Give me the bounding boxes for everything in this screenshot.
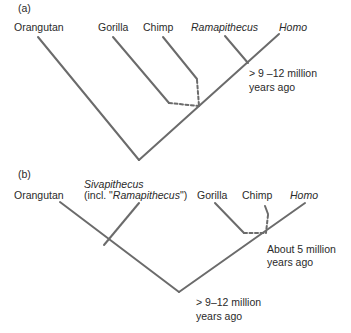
- branch-chimp-a: [163, 37, 197, 79]
- branch-orangutan-a: [38, 37, 139, 160]
- dotted-link-a: [169, 103, 199, 106]
- branch-gorilla-b: [215, 203, 244, 233]
- branch-ramapithecus-a: [225, 36, 248, 63]
- taxon-chimp-b: Chimp: [242, 189, 272, 202]
- branch-orangutan-b: [60, 202, 179, 292]
- taxon-sivapithecus-note: (incl. "Ramapithecus"): [84, 189, 187, 202]
- note-ramapithecus: Ramapithecus: [113, 189, 180, 201]
- taxon-orangutan-b: Orangutan: [14, 189, 64, 202]
- taxon-homo-a: Homo: [279, 21, 307, 34]
- dotted-chimp-a: [197, 80, 199, 106]
- taxon-gorilla-b: Gorilla: [197, 189, 227, 202]
- annotation-b-root-line1: > 9–12 million: [196, 296, 261, 309]
- taxon-chimp-a: Chimp: [143, 21, 173, 34]
- panel-b-label: (b): [18, 168, 31, 181]
- panel-a-label: (a): [18, 2, 31, 15]
- annotation-a-line2: years ago: [249, 81, 295, 94]
- taxon-gorilla-a: Gorilla: [98, 21, 128, 34]
- annotation-b-root-line2: years ago: [196, 310, 242, 323]
- phylogeny-diagram: [0, 0, 351, 333]
- tree-a: [38, 34, 279, 160]
- taxon-homo-b: Homo: [290, 189, 318, 202]
- branch-sivapithecus-b: [104, 203, 139, 245]
- note-suffix: "): [180, 189, 187, 201]
- annotation-a-line1: > 9 –12 million: [249, 67, 317, 80]
- taxon-ramapithecus-a: Ramapithecus: [191, 21, 258, 34]
- branch-chimp-b: [265, 206, 268, 214]
- trunk-homo-a: [139, 34, 279, 160]
- annotation-b-recent-line1: About 5 million: [267, 243, 336, 256]
- annotation-b-recent-line2: years ago: [267, 256, 313, 269]
- branch-gorilla-a: [113, 37, 169, 103]
- note-prefix: (incl. ": [84, 189, 113, 201]
- taxon-orangutan-a: Orangutan: [14, 21, 64, 34]
